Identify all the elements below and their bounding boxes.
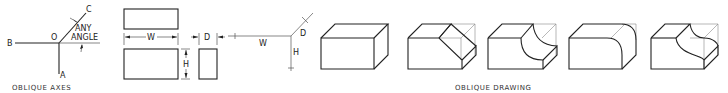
construction-line	[704, 24, 718, 38]
top-face	[321, 24, 388, 38]
oblique-axes-figure: B O C A ANY ANGLE OBLIQUE AXES	[7, 5, 100, 92]
label-any: ANY	[75, 24, 91, 33]
tick-mark	[302, 17, 308, 23]
construction-line	[611, 24, 625, 38]
front-face	[321, 38, 374, 69]
arrowhead-icon	[185, 73, 188, 78]
top-face	[651, 24, 690, 38]
top-view	[124, 9, 178, 29]
construction-line	[542, 24, 556, 38]
label-d: D	[204, 33, 210, 42]
label-w: W	[259, 39, 267, 48]
front-face	[569, 38, 622, 69]
label-a: A	[60, 71, 66, 80]
label-d: D	[300, 29, 306, 38]
side-face	[704, 46, 718, 69]
side-face	[462, 46, 476, 69]
arrowhead-icon	[172, 36, 177, 39]
construction-lines	[622, 24, 636, 40]
chamfer-edge	[451, 24, 476, 46]
front-face-s-curve	[651, 38, 704, 69]
arrowhead-icon	[218, 36, 223, 39]
oblique-box-step-2-chamfer	[408, 24, 476, 69]
oblique-box-step-5-s-curve	[651, 24, 718, 69]
label-w: W	[147, 33, 155, 42]
label-o: O	[51, 33, 57, 42]
caption-oblique-axes: OBLIQUE AXES	[12, 84, 71, 92]
side-face	[543, 46, 557, 69]
oblique-box-step-3-concave	[488, 24, 557, 69]
oblique-dimension-axes-figure: W H D	[228, 13, 313, 71]
orthographic-views-figure: W H D	[124, 9, 225, 79]
chamfer-edge	[439, 24, 451, 38]
side-face	[622, 40, 636, 69]
label-h: H	[293, 48, 299, 57]
top-face	[488, 24, 533, 38]
oblique-box-step-1	[321, 24, 388, 69]
arrowhead-icon	[193, 36, 198, 39]
front-view	[124, 49, 178, 79]
label-angle: ANGLE	[71, 33, 98, 42]
arrowhead-icon	[185, 50, 188, 55]
label-h: H	[183, 60, 189, 69]
front-face	[408, 38, 462, 69]
side-view	[199, 49, 217, 79]
arrowhead-icon	[125, 36, 130, 39]
label-b: B	[7, 39, 13, 48]
arrowhead-icon	[80, 44, 83, 49]
construction-line	[461, 24, 475, 38]
caption-oblique-drawing: OBLIQUE DRAWING	[455, 84, 532, 92]
oblique-box-step-4-rounded	[569, 24, 636, 69]
oblique-drawing-diagram: B O C A ANY ANGLE OBLIQUE AXES W H	[0, 0, 728, 93]
front-face-curve	[488, 38, 543, 69]
label-c: C	[86, 5, 92, 14]
